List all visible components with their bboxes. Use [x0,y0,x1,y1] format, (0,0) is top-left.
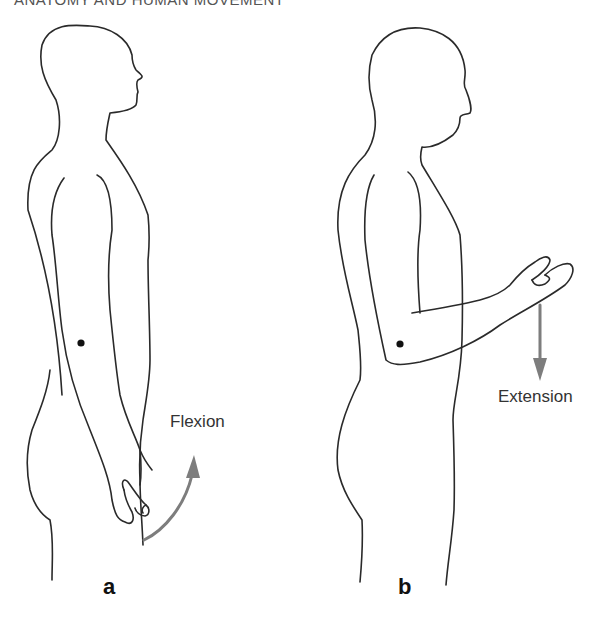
extension-label: Extension [498,387,573,407]
flexion-arrow [144,455,200,540]
flexion-label: Flexion [170,412,225,432]
figure-a-body-outline [27,25,152,580]
panel-label-b: b [398,574,411,600]
extension-arrow [533,305,547,381]
elbow-joint-marker-a [77,339,84,346]
anatomy-figure [0,0,615,623]
elbow-joint-marker-b [396,340,403,347]
figure-b-body-outline [337,28,573,585]
panel-label-a: a [103,574,115,600]
